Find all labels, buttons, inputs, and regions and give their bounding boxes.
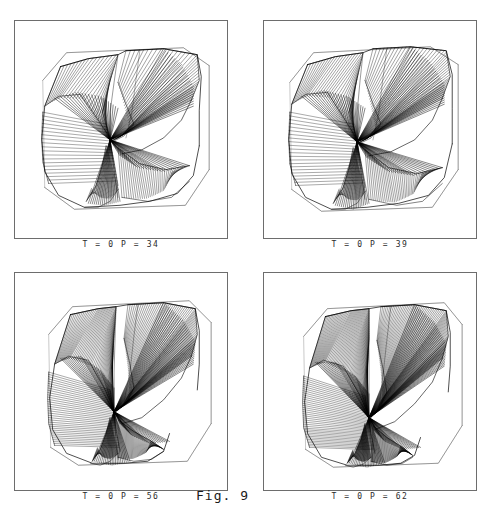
page-header-note bbox=[0, 0, 490, 6]
wireframe-plot-2 bbox=[264, 21, 476, 238]
panel-1-caption: T = 0 P = 34 bbox=[14, 240, 228, 249]
wireframe-svg-2 bbox=[264, 21, 476, 238]
plot-panel-1[interactable] bbox=[14, 20, 228, 239]
figure-label: Fig. 9 bbox=[196, 488, 249, 503]
figure-page: T = 0 P = 34 T = 0 P = 39 T = 0 P = 56 T… bbox=[0, 0, 490, 514]
wireframe-svg-3 bbox=[15, 273, 227, 490]
plot-panel-4[interactable] bbox=[263, 272, 477, 491]
wireframe-svg-4 bbox=[264, 273, 476, 490]
wireframe-plot-3 bbox=[15, 273, 227, 490]
wireframe-plot-1 bbox=[15, 21, 227, 238]
plot-panel-3[interactable] bbox=[14, 272, 228, 491]
wireframe-plot-4 bbox=[264, 273, 476, 490]
wireframe-svg-1 bbox=[15, 21, 227, 238]
panel-2-caption: T = 0 P = 39 bbox=[263, 240, 477, 249]
plot-panel-2[interactable] bbox=[263, 20, 477, 239]
panel-4-caption: T = 0 P = 62 bbox=[263, 492, 477, 501]
